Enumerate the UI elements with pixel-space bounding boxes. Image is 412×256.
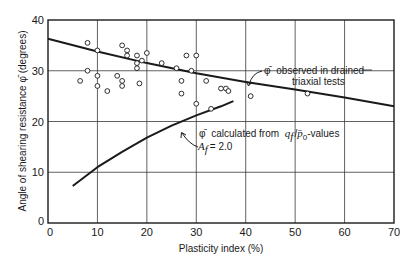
data-point-open-circle (95, 48, 100, 53)
data-point-open-circle (95, 73, 100, 78)
chart: 010203040 010203040506070 Angle of shear… (0, 0, 412, 256)
phi-bar-symbol: φ̄ (199, 128, 207, 139)
y-axis-ticks: 010203040 (32, 14, 44, 227)
data-point-open-circle (120, 84, 125, 89)
x-tick-label: 40 (240, 226, 252, 238)
data-point-open-circle (194, 101, 199, 106)
data-point-open-circle (179, 91, 184, 96)
x-axis-ticks: 010203040506070 (47, 226, 400, 238)
x-tick-label: 0 (47, 226, 53, 238)
data-point-open-circle (137, 81, 142, 86)
x-tick-label: 70 (388, 226, 400, 238)
y-tick-label: 20 (32, 116, 44, 128)
phi-bar-symbol: φ̄ (264, 65, 272, 76)
data-point-open-circle (120, 79, 125, 84)
annotation-calculated-text: calculated from (211, 128, 279, 139)
values-tail: -values (307, 128, 339, 139)
data-point-open-circle (115, 73, 120, 78)
data-point-open-circle (219, 86, 224, 91)
data-points (78, 40, 310, 111)
data-point-open-circle (226, 89, 231, 94)
data-point-open-circle (95, 84, 100, 89)
data-point-open-circle (140, 58, 145, 63)
data-point-open-circle (135, 53, 140, 58)
data-point-open-circle (159, 61, 164, 66)
data-point-open-circle (184, 53, 189, 58)
x-tick-label: 50 (289, 226, 301, 238)
annotation-observed-line1: observed in drained (276, 65, 364, 76)
x-tick-label: 30 (190, 226, 202, 238)
svg-text:φ̄ observed in drained: φ̄ observed in drained (264, 65, 364, 76)
data-point-open-circle (125, 48, 130, 53)
curves (48, 39, 394, 186)
annotation-observed-line2: triaxial tests (292, 76, 345, 87)
annotation-observed: φ̄ observed in drained triaxial tests (246, 65, 372, 87)
data-point-open-circle (209, 106, 214, 111)
x-tick-label: 20 (141, 226, 153, 238)
data-point-open-circle (135, 66, 140, 71)
x-axis-label: Plasticity index (%) (179, 243, 263, 254)
data-point-open-circle (78, 79, 83, 84)
y-tick-label: 40 (32, 14, 44, 26)
data-point-open-circle (105, 89, 110, 94)
data-point-open-circle (120, 43, 125, 48)
x-tick-label: 60 (338, 226, 350, 238)
data-point-open-circle (248, 94, 253, 99)
data-point-open-circle (305, 91, 310, 96)
svg-text:φ̄ calculated from: φ̄ calculated from qf/p̄0-values (199, 127, 339, 142)
data-point-open-circle (204, 79, 209, 84)
data-point-open-circle (174, 66, 179, 71)
data-point-open-circle (179, 79, 184, 84)
af-value: = 2.0 (210, 141, 233, 152)
arrow-calculated (182, 133, 198, 147)
data-point-open-circle (85, 68, 90, 73)
x-tick-label: 10 (91, 226, 103, 238)
y-tick-label: 30 (32, 65, 44, 77)
y-tick-label: 10 (32, 166, 44, 178)
y-tick-label: 0 (38, 215, 44, 227)
data-point-open-circle (125, 53, 130, 58)
data-point-open-circle (85, 40, 90, 45)
annotation-calculated: φ̄ calculated from qf/p̄0-values Af= 2.0 (181, 127, 339, 155)
data-point-open-circle (144, 51, 149, 56)
y-axis-label: Angle of shearing resistance φ̄ (degrees… (17, 30, 28, 211)
data-point-open-circle (194, 53, 199, 58)
svg-text:Af= 2.0: Af= 2.0 (197, 140, 233, 155)
data-point-open-circle (189, 68, 194, 73)
data-point-open-circle (135, 61, 140, 66)
